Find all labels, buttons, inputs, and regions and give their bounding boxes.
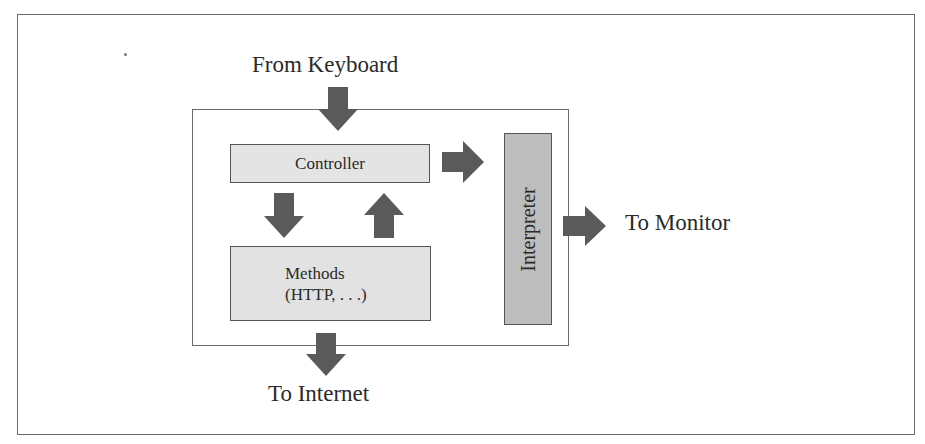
interpreter-label: Interpreter [517, 187, 540, 271]
to-internet-label: To Internet [268, 381, 369, 407]
arrow-up-controller-icon [364, 193, 404, 238]
interpreter-box: Interpreter [504, 133, 552, 325]
methods-label: Methods [285, 263, 345, 284]
controller-label: Controller [295, 154, 365, 174]
methods-box: Methods (HTTP, . . .) [230, 246, 431, 321]
arrow-right-monitor-icon [563, 206, 606, 246]
stray-dot [124, 53, 127, 56]
methods-sublabel: (HTTP, . . .) [285, 284, 367, 305]
arrow-down-internet-icon [306, 333, 346, 376]
to-monitor-label: To Monitor [625, 210, 730, 236]
from-keyboard-label: From Keyboard [252, 52, 398, 78]
arrow-right-controller-icon [442, 141, 484, 183]
arrow-down-keyboard-icon [318, 87, 358, 131]
controller-box: Controller [230, 144, 430, 183]
arrow-down-methods-icon [264, 193, 304, 238]
